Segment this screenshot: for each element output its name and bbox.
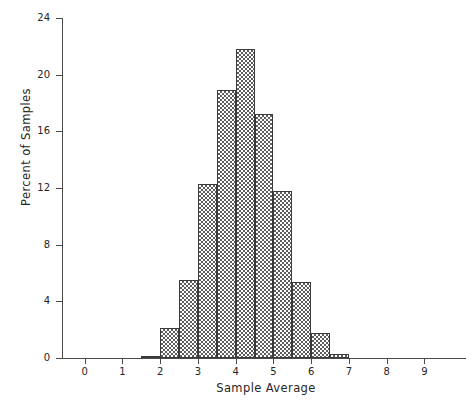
x-tick-label: 9 [409, 366, 439, 377]
histogram-bar [273, 191, 292, 358]
x-tick-label: 0 [70, 366, 100, 377]
y-tick-label: 0 [8, 352, 50, 363]
x-tick-mark [311, 358, 312, 364]
y-tick-label: 8 [8, 239, 50, 250]
histogram-bar [255, 114, 274, 358]
y-tick-label: 12 [8, 182, 50, 193]
x-tick-mark [198, 358, 199, 364]
histogram-bar [179, 280, 198, 358]
x-tick-mark [387, 358, 388, 364]
histogram-bar [217, 90, 236, 358]
y-tick-mark [56, 358, 62, 359]
x-axis-title: Sample Average [66, 381, 466, 395]
histogram-bar [160, 328, 179, 358]
histogram-bar [330, 354, 349, 358]
x-tick-label: 3 [183, 366, 213, 377]
histogram-bar [236, 49, 255, 358]
x-tick-label: 5 [258, 366, 288, 377]
y-tick-label: 20 [8, 69, 50, 80]
x-tick-label: 2 [145, 366, 175, 377]
histogram-bars [62, 18, 466, 358]
x-tick-mark [273, 358, 274, 364]
histogram-bar [311, 333, 330, 359]
histogram-bar [198, 184, 217, 358]
x-tick-label: 4 [221, 366, 251, 377]
x-tick-label: 8 [372, 366, 402, 377]
histogram-bar [292, 282, 311, 359]
x-tick-label: 7 [334, 366, 364, 377]
y-axis-title: Percent of Samples [19, 67, 33, 227]
x-tick-mark [424, 358, 425, 364]
x-tick-mark [236, 358, 237, 364]
histogram-bar [141, 356, 160, 358]
x-tick-label: 1 [107, 366, 137, 377]
x-tick-mark [349, 358, 350, 364]
x-tick-mark [85, 358, 86, 364]
x-tick-label: 6 [296, 366, 326, 377]
histogram-figure: Percent of Samples Sample Average 048121… [0, 0, 473, 407]
x-tick-mark [160, 358, 161, 364]
x-tick-mark [122, 358, 123, 364]
y-tick-label: 24 [8, 12, 50, 23]
y-tick-label: 4 [8, 295, 50, 306]
y-tick-label: 16 [8, 125, 50, 136]
